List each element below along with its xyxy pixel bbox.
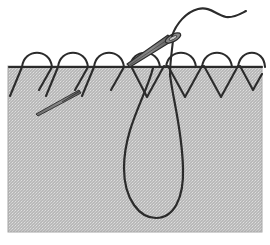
suture-diagram-canvas (0, 0, 270, 245)
suture-illustration-figure: Suture needle passing through tissue wit… (0, 0, 270, 245)
